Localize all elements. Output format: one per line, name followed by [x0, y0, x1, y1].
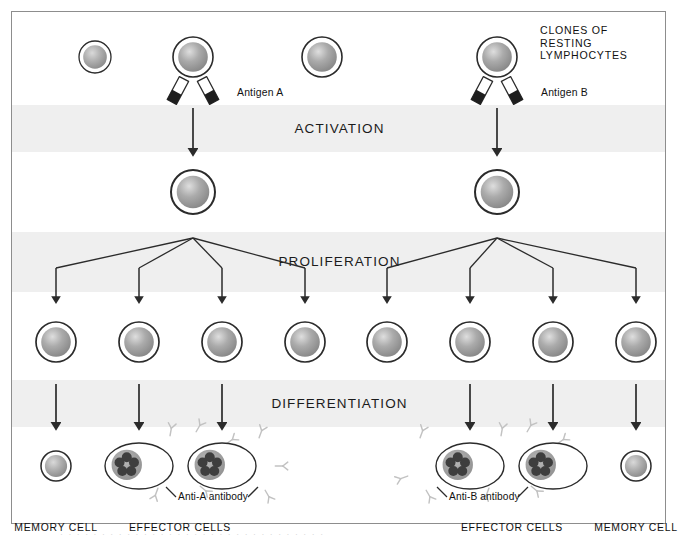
scan-artifact-text: · · · · · · · · · · · · · · · · · · · · …: [60, 529, 660, 540]
clones-label-line2: RESTING: [540, 37, 628, 50]
clones-of-resting-lymphocytes-label: CLONES OF RESTING LYMPHOCYTES: [540, 24, 628, 62]
antigen-b-label: Antigen B: [541, 87, 588, 98]
antigen-a-label: Antigen A: [237, 87, 283, 98]
band-label-proliferation: PROLIFERATION: [0, 254, 679, 269]
anti-a-antibody-label: Anti-A antibody: [178, 491, 248, 502]
clones-label-line1: CLONES OF: [540, 24, 628, 37]
band-label-activation: ACTIVATION: [0, 121, 679, 136]
clonal-selection-diagram: ACTIVATION PROLIFERATION DIFFERENTIATION: [0, 0, 679, 543]
band-label-differentiation: DIFFERENTIATION: [0, 396, 679, 411]
clones-label-line3: LYMPHOCYTES: [540, 49, 628, 62]
anti-b-antibody-label: Anti-B antibody: [449, 491, 520, 502]
